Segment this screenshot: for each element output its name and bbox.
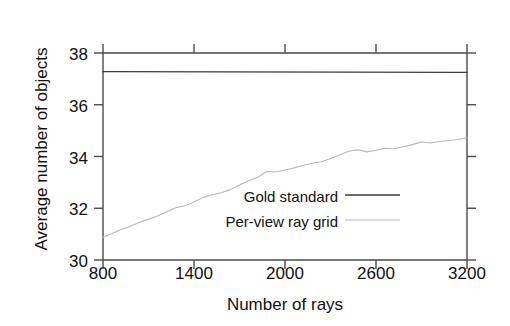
series-line-gold-standard [103, 72, 467, 73]
legend-line-samples [345, 195, 400, 220]
legend-label-per-view-ray-grid: Per-view ray grid [173, 213, 338, 230]
chart-figure: Average number of objects Number of rays… [0, 0, 510, 326]
plot-area [0, 0, 510, 326]
legend-label-gold-standard: Gold standard [198, 188, 338, 205]
axes-frame [94, 44, 476, 269]
